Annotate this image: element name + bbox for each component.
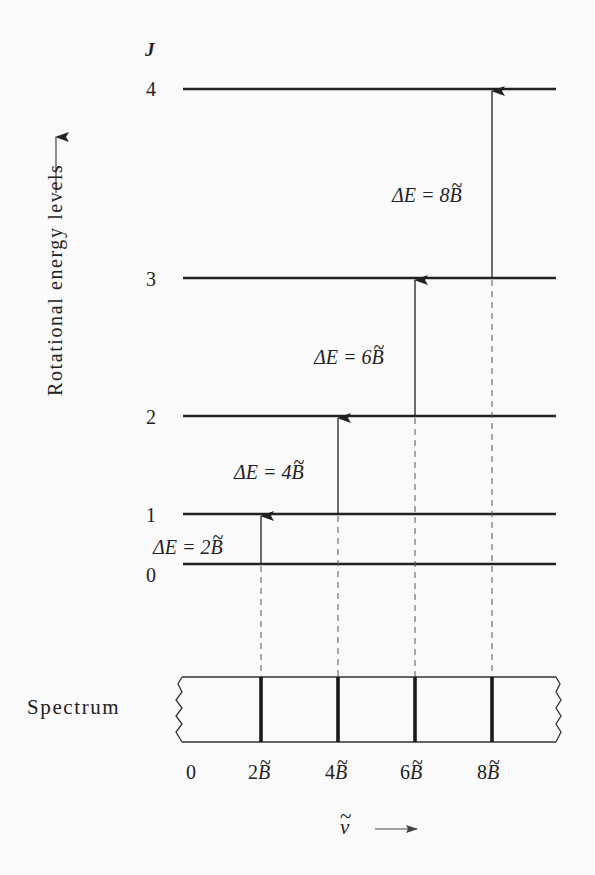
spectrum-label: Spectrum: [27, 697, 120, 718]
transition-label-4b: ΔE = 4B~: [234, 462, 304, 482]
energy-levels: [183, 89, 556, 564]
spectrum-box: [176, 677, 561, 742]
transition-label-8b: ΔE = 8B~: [392, 185, 462, 205]
level-label-j3: 3: [146, 269, 156, 289]
transition-label-8b-prefix: ΔE = 8: [392, 184, 449, 206]
tick-label-4b: 4B~: [325, 762, 347, 782]
b-tilde-symbol: B~: [371, 347, 383, 367]
spectrum-left-break: [176, 677, 182, 742]
tick-label-0: 0: [186, 762, 196, 782]
x-axis-symbol: ν~: [340, 817, 349, 838]
transition-label-2b: ΔE = 2B~: [153, 537, 223, 557]
level-label-j4: 4: [146, 79, 156, 99]
b-tilde-symbol: B~: [449, 185, 461, 205]
y-axis-label: Rotational energy levels: [45, 164, 65, 396]
b-tilde-symbol: B~: [210, 537, 222, 557]
tick-label-2b: 2B~: [248, 762, 270, 782]
transition-label-2b-prefix: ΔE = 2: [153, 536, 210, 558]
tick-label-8b: 8B~: [477, 762, 499, 782]
transition-arrows: [261, 91, 492, 564]
tick-label-6b: 6B~: [400, 762, 422, 782]
b-tilde-symbol: B~: [291, 462, 303, 482]
level-label-j2: 2: [146, 407, 156, 427]
level-label-j1: 1: [146, 505, 156, 525]
energy-level-diagram: [0, 0, 595, 875]
spectrum-right-break: [556, 677, 561, 742]
spectral-lines: [261, 677, 492, 742]
level-label-j0: 0: [146, 565, 156, 585]
level-axis-symbol: J: [145, 40, 155, 59]
transition-label-4b-prefix: ΔE = 4: [234, 461, 291, 483]
transition-label-6b: ΔE = 6B~: [314, 347, 384, 367]
transition-label-6b-prefix: ΔE = 6: [314, 346, 371, 368]
